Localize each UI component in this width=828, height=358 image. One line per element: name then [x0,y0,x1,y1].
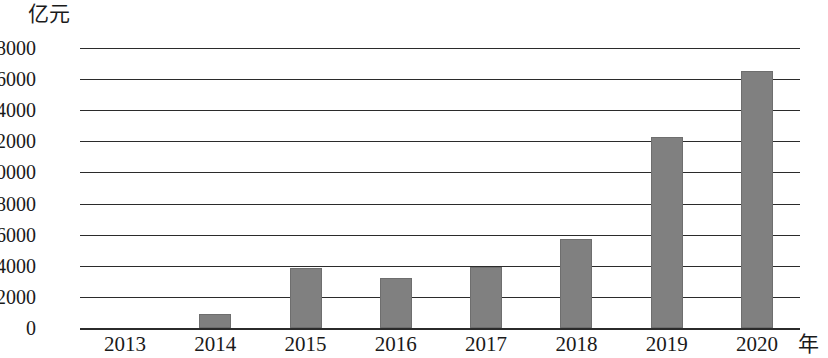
bar-chart: 亿元 0200040006000800010000120001400016000… [0,0,828,358]
bar [199,314,231,328]
y-axis-tick-label: 16000 [0,69,36,89]
y-axis-tick-label: 8000 [0,194,36,214]
bar [651,137,683,328]
y-axis-tick-label: 4000 [0,256,36,276]
x-axis-tick-label: 2020 [711,332,803,356]
y-axis-tick-label: 6000 [0,225,36,245]
x-axis-tick-label: 2017 [440,332,532,356]
x-axis-baseline [80,328,800,330]
y-axis-unit-label: 亿元 [28,2,70,26]
x-axis-tick-label: 2016 [350,332,442,356]
bar [560,239,592,328]
y-axis-tick-label: 18000 [0,38,36,58]
bar [470,267,502,328]
bar [290,268,322,328]
x-axis-tick-label: 2018 [530,332,622,356]
x-axis-title: 年 [798,332,819,356]
bars [80,48,800,328]
plot-area: 0200040006000800010000120001400016000180… [80,48,800,328]
bar [380,278,412,328]
x-axis-tick-label: 2013 [79,332,171,356]
y-axis-tick-label: 12000 [0,131,36,151]
y-axis-tick-label: 10000 [0,162,36,182]
y-axis-tick-label: 0 [0,318,36,338]
x-axis-tick-label: 2015 [260,332,352,356]
x-axis-tick-label: 2019 [621,332,713,356]
y-axis-tick-label: 2000 [0,287,36,307]
x-axis-tick-label: 2014 [169,332,261,356]
bar [741,71,773,328]
y-axis-tick-label: 14000 [0,100,36,120]
